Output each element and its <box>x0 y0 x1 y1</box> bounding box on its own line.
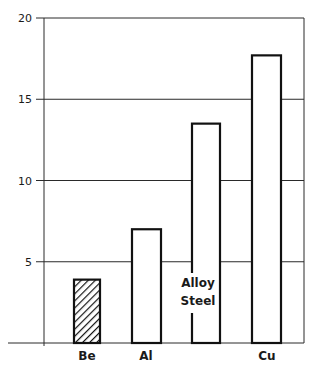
x-category-label: Alloy <box>181 276 215 290</box>
x-category-label: Steel <box>181 294 216 308</box>
y-axis-ticks: 5101520 <box>18 12 32 269</box>
bar-chart: 5101520 BeAlAlloySteelCu <box>0 0 321 371</box>
bars <box>74 55 281 343</box>
y-tick-label: 15 <box>18 93 32 106</box>
category-labels: BeAlAlloySteelCu <box>78 273 275 363</box>
y-tick-label: 10 <box>18 175 32 188</box>
bar-be <box>74 280 100 343</box>
y-tick-label: 5 <box>25 256 32 269</box>
bar-al <box>132 229 161 343</box>
x-category-label: Cu <box>258 349 275 363</box>
x-category-label: Be <box>78 349 95 363</box>
x-category-label: Al <box>139 349 152 363</box>
y-tick-label: 20 <box>18 12 32 25</box>
bar-cu <box>252 55 281 343</box>
